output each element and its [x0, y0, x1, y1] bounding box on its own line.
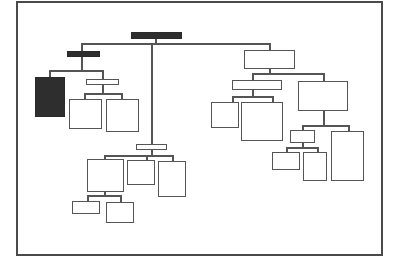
connector-line: [323, 73, 325, 81]
node-left-box-a: [69, 99, 102, 129]
connector-line: [252, 73, 324, 75]
connector-line: [286, 147, 318, 149]
node-center-sub-b: [106, 202, 134, 223]
connector-line: [81, 43, 270, 45]
node-right-sub-b: [303, 152, 327, 181]
node-center-head: [136, 144, 167, 150]
connector-line: [151, 43, 153, 144]
node-right-small: [290, 130, 315, 143]
connector-line: [302, 125, 349, 127]
node-root: [131, 32, 182, 39]
node-center-box-c: [158, 161, 186, 197]
node-center-box-b: [127, 160, 155, 185]
connector-line: [323, 111, 325, 125]
node-center-box-a: [87, 159, 124, 192]
connector-line: [49, 70, 51, 77]
connector-line: [232, 96, 273, 98]
node-right-box-b: [241, 102, 283, 141]
connector-line: [102, 70, 104, 79]
node-left-box-b: [106, 99, 139, 132]
node-right-tall: [331, 131, 364, 181]
connector-line: [269, 43, 271, 50]
connector-line: [49, 70, 103, 72]
connector-line: [120, 195, 122, 202]
node-right-box-a: [211, 102, 239, 128]
node-right-sub-a: [272, 152, 300, 170]
connector-line: [104, 155, 173, 157]
connector-line: [84, 93, 122, 95]
connector-line: [102, 85, 104, 93]
connector-line: [87, 195, 121, 197]
node-left-mid: [86, 79, 119, 85]
connector-line: [81, 57, 83, 70]
node-left-head: [67, 51, 100, 57]
node-right-head: [244, 50, 295, 69]
connector-line: [252, 73, 254, 80]
node-left-tall: [35, 77, 65, 117]
connector-line: [81, 43, 83, 51]
node-right-mid: [232, 80, 282, 90]
node-center-sub-a: [72, 201, 100, 214]
node-right-big: [298, 81, 348, 111]
